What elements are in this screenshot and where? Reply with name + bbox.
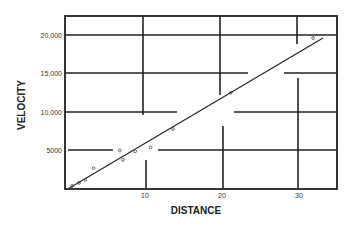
grid bbox=[65, 16, 337, 189]
fit-line bbox=[69, 38, 323, 188]
data-point bbox=[149, 146, 152, 149]
x-axis-title: DISTANCE bbox=[171, 205, 222, 216]
chart: 102030 500010,00015,00020,000 DISTANCE V… bbox=[0, 0, 355, 225]
x-tick-labels: 102030 bbox=[141, 192, 303, 199]
x-tick-label: 10 bbox=[141, 192, 149, 199]
data-point bbox=[312, 37, 315, 40]
data-point bbox=[92, 167, 95, 170]
x-tick-label: 30 bbox=[295, 192, 303, 199]
data-point bbox=[172, 128, 175, 131]
x-tick-label: 20 bbox=[218, 192, 226, 199]
y-tick-label: 15,000 bbox=[41, 70, 63, 77]
data-point bbox=[134, 150, 137, 153]
y-tick-label: 20,000 bbox=[41, 32, 63, 39]
y-tick-label: 10,000 bbox=[41, 109, 63, 116]
y-tick-label: 5000 bbox=[46, 147, 62, 154]
data-point bbox=[122, 158, 125, 161]
y-axis-title: VELOCITY bbox=[16, 80, 27, 130]
y-tick-labels: 500010,00015,00020,000 bbox=[41, 32, 63, 155]
data-point bbox=[118, 149, 121, 152]
